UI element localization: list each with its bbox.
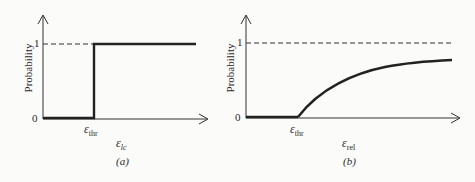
subscript: rel	[347, 143, 355, 152]
subscript: thr	[89, 129, 98, 138]
panel-a-y-label: Probability	[22, 38, 34, 98]
panel-b-caption: (b)	[343, 155, 356, 167]
charts-canvas	[0, 0, 475, 182]
panel-b-x-tick-thr: εthr	[290, 122, 304, 138]
panel-a-caption: (a)	[116, 155, 129, 167]
panel-b-y-label: Probability	[224, 38, 236, 98]
panel-b-saturation-curve	[298, 60, 452, 117]
panel-b-x-label: εrel	[342, 136, 355, 152]
panel-a-y-tick-1: 1	[34, 37, 40, 49]
panel-a-plot	[38, 15, 208, 124]
panel-a-step-curve	[43, 44, 196, 118]
panel-b-y-tick-0: 0	[235, 111, 241, 123]
panel-a-x-label: εlc	[116, 136, 127, 152]
subscript: thr	[295, 129, 304, 138]
panel-a-y-tick-0: 0	[32, 112, 38, 124]
panel-b-y-tick-1: 1	[237, 36, 243, 48]
subscript: lc	[121, 143, 127, 152]
panel-a-x-tick-thr: εthr	[84, 122, 98, 138]
panel-b-plot	[241, 15, 460, 123]
